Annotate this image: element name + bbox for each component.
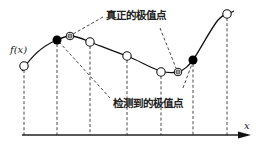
sample-point: [223, 10, 231, 18]
detected-extremum-label: 检测到的极值点: [113, 97, 184, 109]
true-extremum-label: 真正的极值点: [106, 9, 167, 21]
leader-detected-left: [60, 43, 110, 98]
sample-point: [86, 38, 94, 46]
detected-extremum-point: [53, 36, 62, 45]
leader-detected-right: [183, 64, 192, 88]
sample-point: [157, 68, 165, 76]
function-label: f(x): [9, 44, 27, 55]
x-axis-label: x: [244, 120, 250, 131]
true-extremum-point: [174, 68, 182, 76]
leader-true-right: [160, 28, 176, 68]
leader-true-left: [73, 17, 103, 34]
sample-droplines: [24, 18, 227, 135]
true-extremum-point: [66, 32, 74, 40]
sample-point: [123, 52, 131, 60]
extremum-diagram: x f(x) 真正的极值点 检测到的极值点: [0, 0, 261, 149]
detected-extremum-point: [189, 56, 198, 65]
sample-point: [20, 62, 28, 70]
x-axis-arrow-icon: [238, 132, 251, 139]
